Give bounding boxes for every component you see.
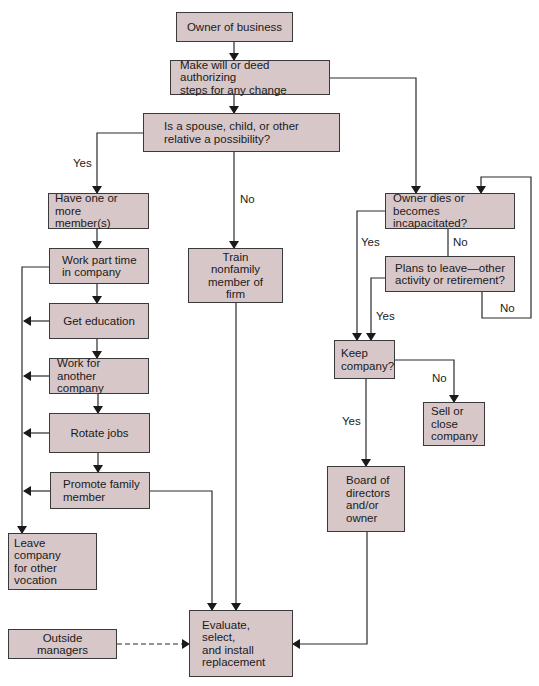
node-outside-managers: Outside managers bbox=[8, 629, 117, 659]
arrow-plans-yes bbox=[371, 278, 385, 340]
label-plans-yes: Yes bbox=[376, 310, 395, 322]
node-owner-dies: Owner dies or becomes incapacitated? bbox=[385, 193, 515, 229]
label-relative-yes: Yes bbox=[73, 157, 92, 169]
node-sell-or-close: Sell or close company bbox=[423, 402, 485, 446]
label-dies-no: No bbox=[453, 236, 468, 248]
node-get-education: Get education bbox=[49, 303, 149, 339]
arrow-will-to-owner-dies bbox=[330, 78, 416, 193]
label-plans-no: No bbox=[500, 302, 515, 314]
node-rotate-jobs: Rotate jobs bbox=[49, 413, 150, 453]
label-relative-no: No bbox=[240, 193, 255, 205]
node-work-part-time: Work part time in company bbox=[49, 248, 149, 284]
arrow-leave-rail bbox=[22, 267, 49, 533]
node-board-of-directors: Board of directors and/or owner bbox=[327, 466, 405, 532]
label-keep-yes: Yes bbox=[342, 415, 361, 427]
node-work-another-company: Work for another company bbox=[49, 358, 149, 394]
label-keep-no: No bbox=[432, 372, 447, 384]
node-evaluate-replacement: Evaluate, select, and install replacemen… bbox=[189, 610, 293, 677]
node-have-members: Have one or more member(s) bbox=[48, 193, 149, 229]
node-train-nonfamily: Train nonfamily member of firm bbox=[188, 248, 283, 303]
node-keep-company: Keep company? bbox=[334, 340, 395, 379]
node-leave-company: Leave company for other vocation bbox=[8, 533, 97, 590]
arrow-relative-yes bbox=[97, 133, 143, 193]
arrow-promote-to-evaluate bbox=[150, 491, 212, 610]
node-make-will: Make will or deed authorizing steps for … bbox=[170, 60, 330, 95]
node-owner-of-business: Owner of business bbox=[176, 12, 293, 42]
label-dies-yes: Yes bbox=[361, 236, 380, 248]
node-plans-to-leave: Plans to leave—other activity or retirem… bbox=[385, 256, 515, 292]
node-promote-family: Promote family member bbox=[50, 472, 150, 509]
arrow-board-to-evaluate bbox=[293, 532, 367, 644]
node-relative-possibility: Is a spouse, child, or other relative a … bbox=[143, 113, 340, 152]
